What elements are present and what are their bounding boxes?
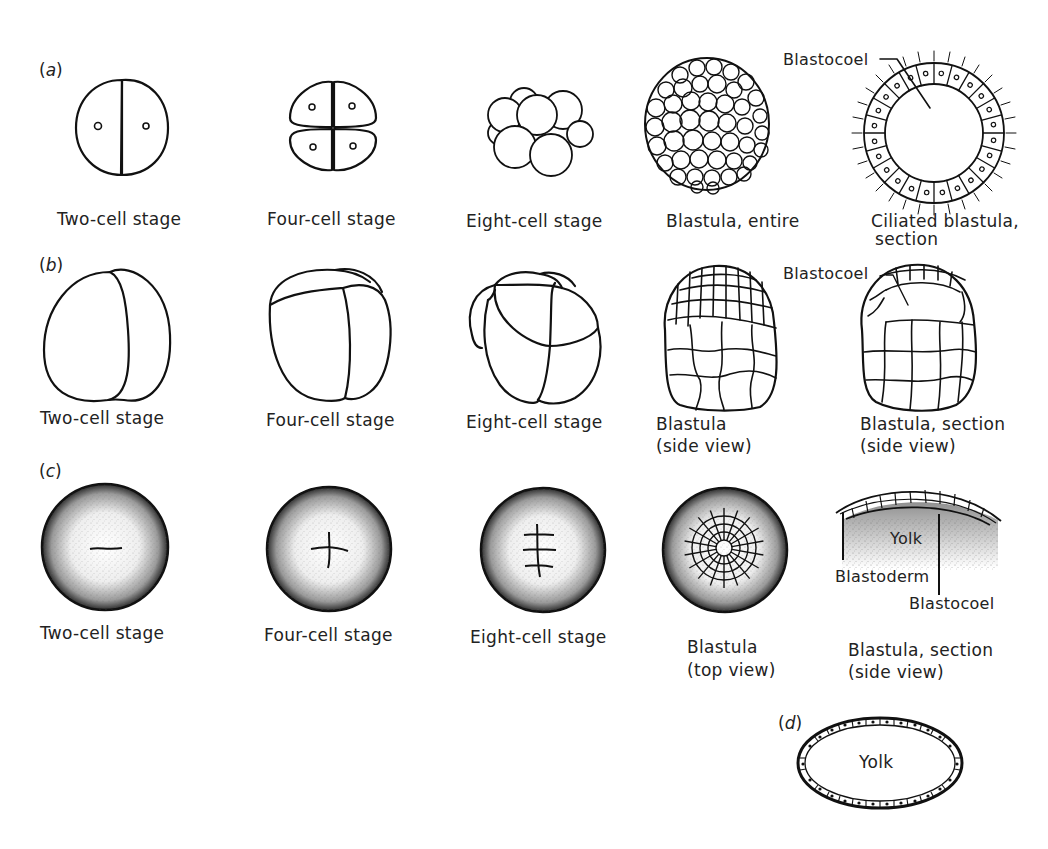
b-blastula-side-drawing [665,266,777,411]
caption-c-blastula-top-line1: Blastula [687,637,758,658]
a-two-cell-drawing [76,80,168,175]
caption-c-two-cell: Two-cell stage [40,623,164,644]
annotation-c-blastoderm: Blastoderm [835,566,930,587]
annotation-c-yolk: Yolk [890,528,922,549]
a-eight-cell-drawing [488,88,593,176]
b-eight-cell-drawing [470,272,601,403]
caption-a-two-cell: Two-cell stage [57,209,181,230]
caption-c-eight-cell: Eight-cell stage [470,627,606,648]
a-blastula-entire-drawing [645,58,769,194]
caption-b-eight-cell: Eight-cell stage [466,412,602,433]
annotation-c-blastocoel: Blastocoel [909,593,995,614]
caption-b-blastula-line2: (side view) [656,436,752,457]
caption-b-two-cell: Two-cell stage [40,408,164,429]
annotation-a-blastocoel: Blastocoel [783,49,869,70]
b-four-cell-drawing [270,269,391,401]
caption-a-four-cell: Four-cell stage [267,209,396,230]
annotation-d-yolk: Yolk [859,752,893,773]
caption-c-blastula-top-line2: (top view) [687,660,776,681]
a-ciliated-blastula-section-drawing [852,51,1016,215]
caption-b-blastula-section-line2: (side view) [860,436,956,457]
a-four-cell-drawing [290,82,376,170]
c-two-cell-drawing [42,484,168,610]
b-two-cell-drawing [44,270,170,401]
caption-a-blastula-entire: Blastula, entire [666,211,800,232]
row-label-a: (a) [39,60,63,80]
c-four-cell-drawing [267,487,391,611]
caption-b-four-cell: Four-cell stage [266,410,395,431]
caption-c-blastula-section-line1: Blastula, section [848,640,993,661]
caption-a-eight-cell: Eight-cell stage [466,211,602,232]
annotation-b-blastocoel: Blastocoel [783,263,869,284]
row-label-b: (b) [39,255,63,275]
row-label-d: (d) [778,713,802,733]
caption-c-blastula-section-line2: (side view) [848,662,944,683]
caption-b-blastula-line1: Blastula [656,414,727,435]
row-label-c: (c) [39,461,62,481]
c-eight-cell-drawing [481,488,605,612]
c-blastula-top-drawing [663,488,787,612]
caption-c-four-cell: Four-cell stage [264,625,393,646]
caption-b-blastula-section-line1: Blastula, section [860,414,1005,435]
caption-a-ciliated-blastula-line2: section [875,229,938,250]
b-blastula-section-drawing [861,265,976,411]
